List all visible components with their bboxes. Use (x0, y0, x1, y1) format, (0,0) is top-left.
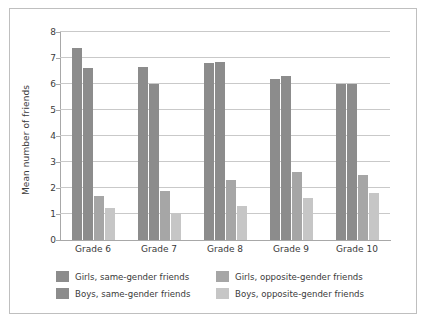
legend-swatch-icon (216, 288, 229, 299)
bar-group (324, 32, 390, 240)
legend-item[interactable]: Girls, same-gender friends (56, 271, 216, 282)
chart-legend: Girls, same-gender friendsGirls, opposit… (56, 268, 386, 302)
y-tick-label-5: 5 (36, 106, 56, 115)
y-tick-label-7: 7 (36, 54, 56, 63)
legend-label: Boys, same-gender friends (75, 289, 191, 299)
bar (149, 84, 159, 240)
x-tick-label-grade-8: Grade 8 (192, 244, 258, 254)
x-axis-line (60, 240, 391, 241)
legend-swatch-icon (56, 271, 69, 282)
bar (72, 48, 82, 240)
y-tick-label-3: 3 (36, 158, 56, 167)
bar (215, 62, 225, 240)
x-tick-label-grade-9: Grade 9 (258, 244, 324, 254)
legend-label: Girls, same-gender friends (75, 272, 189, 282)
bar (292, 172, 302, 240)
y-tick-label-4: 4 (36, 132, 56, 141)
legend-label: Girls, opposite-gender friends (235, 272, 363, 282)
legend-swatch-icon (56, 288, 69, 299)
y-tick-label-2: 2 (36, 184, 56, 193)
bar (83, 68, 93, 240)
bar (347, 84, 357, 240)
bar-group (60, 32, 126, 240)
legend-label: Boys, opposite-gender friends (235, 289, 364, 299)
bar (160, 191, 170, 240)
plot-area (60, 32, 390, 240)
x-tick-label-grade-10: Grade 10 (324, 244, 390, 254)
bar-group (192, 32, 258, 240)
bar (336, 84, 346, 240)
bar (281, 76, 291, 240)
bar (303, 198, 313, 240)
bar-group (126, 32, 192, 240)
bar (226, 180, 236, 240)
y-tick-label-8: 8 (36, 28, 56, 37)
bar (358, 175, 368, 240)
bar (138, 67, 148, 240)
legend-item[interactable]: Girls, opposite-gender friends (216, 271, 391, 282)
y-tick-label-1: 1 (36, 210, 56, 219)
bar (105, 208, 115, 241)
y-tick-label-0: 0 (36, 236, 56, 245)
y-tick-label-6: 6 (36, 80, 56, 89)
bar (369, 193, 379, 240)
y-axis-ticks: 012345678 (32, 32, 56, 240)
bar (171, 213, 181, 240)
legend-item[interactable]: Boys, opposite-gender friends (216, 288, 391, 299)
bar (237, 206, 247, 240)
chart-figure: Mean number of friends 012345678 Girls, … (0, 0, 426, 323)
x-tick-label-grade-6: Grade 6 (60, 244, 126, 254)
bar (270, 79, 280, 240)
bar (204, 63, 214, 240)
bar (94, 196, 104, 240)
legend-item[interactable]: Boys, same-gender friends (56, 288, 216, 299)
legend-swatch-icon (216, 271, 229, 282)
bar-group (258, 32, 324, 240)
x-tick-label-grade-7: Grade 7 (126, 244, 192, 254)
